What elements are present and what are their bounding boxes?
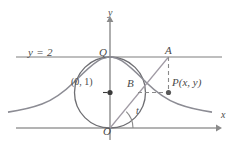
label-point-q: Q [99,47,107,58]
point-marker-center [107,90,112,95]
label-point-p: P(x, y) [172,77,201,88]
figure-container: y = 2 y x Q A B O t (0, 1) P(x, y) [0,0,236,144]
label-y-equals-2: y = 2 [28,47,53,58]
angle-arc-t [126,112,133,128]
diagram-canvas [0,0,236,144]
label-point-a: A [165,45,172,56]
label-circle-center: (0, 1) [71,77,93,87]
label-axis-x: x [221,110,225,120]
label-point-b: B [127,78,134,89]
label-angle-t: t [136,106,139,116]
x-axis-arrow-icon [216,125,222,132]
label-point-o: O [103,126,111,137]
label-axis-y: y [108,8,112,18]
point-marker-P [166,90,171,95]
